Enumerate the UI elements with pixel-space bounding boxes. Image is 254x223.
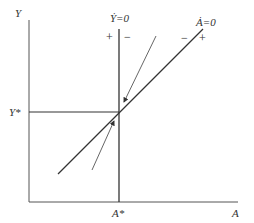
adot-minus-sign: − <box>181 31 188 45</box>
adot-zero-label: Ȧ=0 <box>195 16 216 28</box>
ydot-plus-sign: + <box>106 30 113 44</box>
adot-plus-sign: + <box>199 31 206 45</box>
adot-zero-line <box>58 29 203 174</box>
y-axis-label: Y <box>15 7 23 19</box>
a-star-label: A* <box>111 207 125 219</box>
phase-diagram: Y A Y* A* Ẏ=0 + − Ȧ=0 − + <box>0 0 254 223</box>
ydot-minus-sign: − <box>124 30 131 44</box>
ydot-zero-label: Ẏ=0 <box>110 12 130 24</box>
x-axis-label: A <box>231 207 239 219</box>
y-star-label: Y* <box>9 106 21 118</box>
